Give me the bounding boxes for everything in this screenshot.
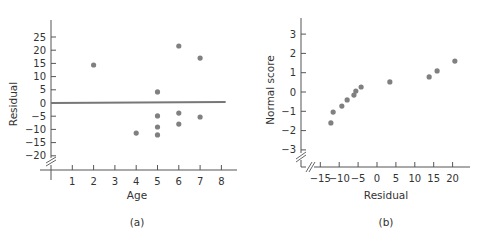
y-tick-label: 25: [33, 32, 46, 43]
x-tick-label: 15: [427, 173, 440, 184]
y-tick-label: −10: [25, 124, 46, 135]
x-ticks: 12345678: [69, 165, 224, 187]
residual-vs-age-plot: −20−15−10−50510152025 12345678 Residual …: [7, 20, 237, 228]
figure: −20−15−10−50510152025 12345678 Residual …: [0, 0, 484, 241]
y-tick-label: −15: [25, 137, 46, 148]
y-tick-label: 15: [33, 58, 46, 69]
x-axis-title: Residual: [364, 189, 408, 201]
data-point: [155, 132, 160, 137]
x-ticks: −15−10−505101520: [310, 162, 459, 184]
y-axis-title: Residual: [7, 82, 19, 126]
y-tick-label: 3: [290, 29, 296, 40]
panel-label-a: (a): [130, 216, 145, 228]
data-points: [91, 43, 203, 137]
data-point: [353, 88, 358, 93]
data-point: [176, 122, 181, 127]
data-point: [387, 79, 392, 84]
y-tick-label: −3: [281, 144, 296, 155]
panel-label-b: (b): [379, 216, 394, 228]
x-tick-label: 3: [112, 176, 118, 187]
x-tick-label: 10: [408, 173, 421, 184]
data-point: [155, 89, 160, 94]
y-tick-label: 20: [33, 45, 46, 56]
x-tick-label: −5: [351, 173, 366, 184]
data-point: [427, 74, 432, 79]
x-tick-label: 7: [197, 176, 203, 187]
x-tick-label: 20: [446, 173, 459, 184]
x-axis-break-icon: [306, 161, 315, 173]
data-point: [91, 62, 96, 67]
data-point: [155, 124, 160, 129]
x-tick-label: 5: [393, 173, 399, 184]
x-tick-label: 0: [374, 173, 380, 184]
data-point: [328, 120, 333, 125]
data-point: [345, 97, 350, 102]
y-tick-label: 0: [40, 98, 46, 109]
y-tick-label: 0: [290, 87, 296, 98]
x-tick-label: 1: [69, 176, 75, 187]
data-point: [198, 56, 203, 61]
x-tick-label: 2: [90, 176, 96, 187]
x-tick-label: 4: [133, 176, 139, 187]
data-point: [134, 130, 139, 135]
data-point: [452, 59, 457, 64]
data-point: [359, 84, 364, 89]
y-tick-label: 10: [33, 71, 46, 82]
data-point: [339, 103, 344, 108]
y-ticks: −3−2−10123: [281, 29, 306, 156]
y-axis-break-icon: [45, 157, 57, 166]
y-tick-label: −1: [281, 106, 296, 117]
x-tick-label: 6: [176, 176, 182, 187]
y-tick-label: −2: [281, 125, 296, 136]
y-tick-label: 2: [290, 48, 296, 59]
data-points: [328, 59, 457, 126]
x-tick-label: 8: [218, 176, 224, 187]
x-tick-label: 5: [154, 176, 160, 187]
x-tick-label: −10: [329, 173, 350, 184]
data-point: [155, 113, 160, 118]
data-point: [331, 109, 336, 114]
data-point: [198, 114, 203, 119]
y-tick-label: 5: [40, 84, 46, 95]
y-axis-title: Normal score: [264, 55, 276, 125]
data-point: [435, 68, 440, 73]
y-tick-label: −20: [25, 150, 46, 161]
data-point: [176, 43, 181, 48]
data-point: [176, 110, 181, 115]
y-tick-label: −5: [31, 111, 46, 122]
x-axis-title: Age: [127, 189, 147, 201]
y-tick-label: 1: [290, 67, 296, 78]
fit-line: [51, 102, 226, 103]
normal-probability-plot: −3−2−10123 −15−10−505101520 Normal score…: [264, 18, 470, 228]
